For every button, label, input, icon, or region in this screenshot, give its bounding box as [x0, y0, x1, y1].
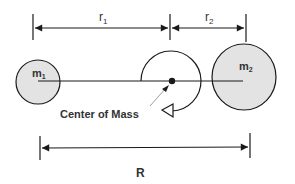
R-dimension: R: [40, 133, 250, 180]
mass-2-circle: [212, 44, 276, 110]
R-label: R: [136, 166, 145, 180]
leader-line: [150, 88, 166, 106]
center-of-mass-label: Center of Mass: [60, 108, 139, 120]
mass-2: m2: [212, 44, 276, 110]
r2-label: r2: [205, 10, 214, 26]
r2-dimension: r2: [170, 10, 246, 42]
center-of-mass-diagram: r1 r2 m1 m2 Center of Mass R: [0, 0, 295, 184]
r1-label: r1: [99, 10, 108, 26]
center-of-mass-dot: [169, 78, 175, 84]
rotation-arrowhead-icon: [162, 104, 173, 117]
R-arrow: [42, 147, 248, 148]
mass-1: m1: [16, 60, 60, 104]
r1-dimension: r1: [33, 10, 168, 40]
